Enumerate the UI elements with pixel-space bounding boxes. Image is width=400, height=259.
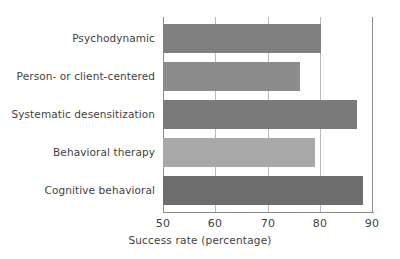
x-tick-label-60: 60 <box>208 217 222 230</box>
category-label-behavioral-therapy: Behavioral therapy <box>5 146 155 158</box>
x-tick-label-80: 80 <box>313 217 327 230</box>
x-tick-label-90: 90 <box>365 217 379 230</box>
bar-chart-figure: Psychodynamic Person- or client-centered… <box>0 0 400 259</box>
gridline-90 <box>372 17 373 212</box>
bar-cognitive-behavioral[interactable] <box>163 176 363 205</box>
bar-systematic-desensitization[interactable] <box>163 100 357 129</box>
bar-psychodynamic[interactable] <box>163 24 321 53</box>
bar-behavioral-therapy[interactable] <box>163 138 315 167</box>
x-axis-line <box>163 212 374 213</box>
x-tick-label-50: 50 <box>156 217 170 230</box>
category-label-cognitive-behavioral: Cognitive behavioral <box>5 184 155 196</box>
bar-person-centered[interactable] <box>163 62 300 91</box>
category-label-person-centered: Person- or client-centered <box>5 70 155 82</box>
category-label-systematic-desensitization: Systematic desensitization <box>5 108 155 120</box>
x-axis-title: Success rate (percentage) <box>0 234 400 246</box>
x-tick-label-70: 70 <box>261 217 275 230</box>
plot-area: Psychodynamic Person- or client-centered… <box>163 17 373 212</box>
category-label-psychodynamic: Psychodynamic <box>5 32 155 44</box>
